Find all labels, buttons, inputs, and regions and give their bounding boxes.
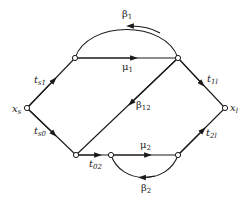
label-t-1l: t1l [207,73,218,86]
node-xs [24,105,29,110]
node-n4 [108,152,113,157]
label-mu-2: μ2 [140,139,151,152]
label-beta-1: β1 [122,8,132,21]
label-beta-12: β12 [136,99,151,112]
edge-n5-xl [178,108,225,155]
label-mu-1: μ1 [122,61,133,74]
edge-n2-n3 [76,58,178,155]
node-n3 [73,152,78,157]
edge-n2-xl [178,58,225,108]
label-xl: xl [230,102,238,115]
label-t-s0: ts0 [34,125,47,138]
node-n5 [175,152,180,157]
label-t-s1: ts1 [34,74,46,87]
signal-flow-graph: xs xl ts1 ts0 μ1 β1 β12 t1l t02 μ2 β2 t2… [0,0,251,201]
label-xs: xs [12,103,22,116]
edge-n2-n1-arc [75,26,178,58]
label-t-02: t02 [89,158,102,171]
node-n1 [72,55,77,60]
node-xl [222,105,227,110]
label-t-2l: t2l [206,127,217,140]
node-n2 [175,55,180,60]
label-beta-2: β2 [141,182,151,195]
edge-n5-n4-arc [111,155,178,178]
